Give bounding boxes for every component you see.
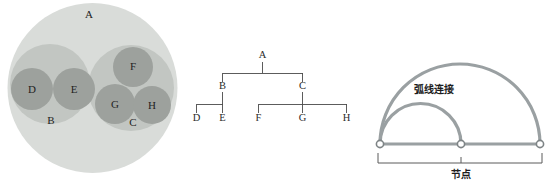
tree-node-a: A — [259, 49, 267, 60]
tree-node-b: B — [219, 80, 226, 91]
circle-label-d: D — [28, 83, 36, 95]
tree-diagram: A B C D E F G H — [193, 49, 351, 123]
tree-node-h: H — [343, 112, 351, 123]
circle-label-a: A — [85, 8, 93, 20]
arc-diagram: 弧线连接 节点 — [376, 64, 543, 180]
circle-label-g: G — [111, 98, 119, 110]
arc-connection-label: 弧线连接 — [414, 83, 454, 95]
circle-label-c: C — [129, 116, 136, 128]
node-label: 节点 — [451, 168, 471, 180]
circle-label-f: F — [130, 60, 136, 72]
tree-node-d: D — [193, 112, 201, 123]
figure-root: A B C D E F G H — [0, 0, 554, 189]
arc-node-2[interactable] — [457, 140, 464, 147]
arc-node-1[interactable] — [376, 140, 383, 147]
circle-packing-diagram: A B C D E F G H — [8, 3, 178, 173]
tree-node-e: E — [219, 112, 225, 123]
arc-node-3[interactable] — [536, 140, 543, 147]
circle-label-e: E — [71, 83, 78, 95]
circle-label-h: H — [148, 99, 156, 111]
tree-node-g: G — [299, 112, 307, 123]
tree-node-c: C — [299, 80, 306, 91]
circle-label-b: B — [47, 114, 54, 126]
tree-node-f: F — [256, 112, 262, 123]
arc-connection-inner — [380, 104, 461, 145]
figure-svg: A B C D E F G H — [0, 0, 554, 189]
